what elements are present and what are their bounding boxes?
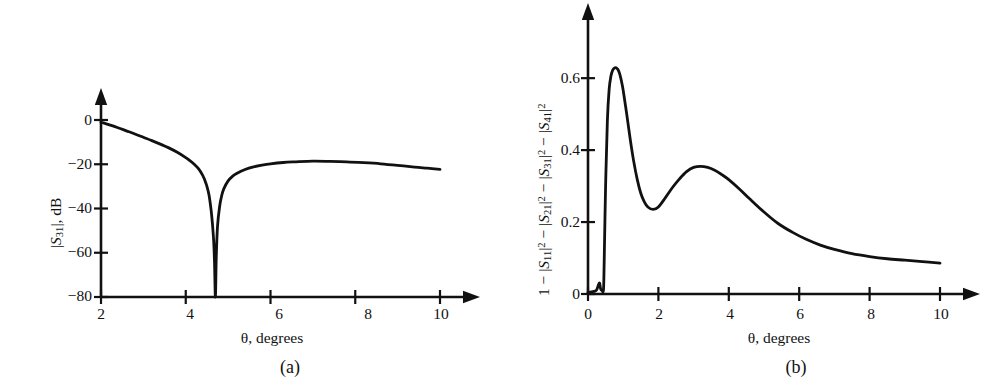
panel-a-ytick-minus80: −80 [68,288,92,304]
panel-b-xtick-6: 6 [796,306,804,322]
panel-b-y-axis-arrow [582,3,594,20]
panel-a-y-axis-bar-left: | [47,245,64,248]
figure-container: 0 −20 −40 −60 −80 2 4 6 8 10 θ, degrees … [0,0,987,391]
panel-b-xtick-10: 10 [933,306,949,322]
panel-a-y-axis-unit: , dB [47,198,64,224]
panel-a-y-axis-arrow [95,88,107,105]
panel-a-y-axis-s: S [47,237,64,245]
panel-b-y-axis-title: 1 − |S11|2 − |S21|2 − |S31|2 − |S41|2 [536,104,554,296]
panel-b-ytick-0p2: 0.2 [561,214,580,230]
panel-b-xtick-8: 8 [867,306,875,322]
panel-b-caption: (b) [786,358,807,376]
panel-a-ytick-0: 0 [84,112,92,128]
panel-b-x-axis-arrow [963,288,980,300]
panel-a-caption: (a) [280,358,300,376]
panel-b-plot [494,0,987,391]
panel-b-y-axis-expression: 1 − |S11|2 − |S21|2 − |S31|2 − |S41|2 [535,104,552,296]
panel-b-x-axis-title: θ, degrees [748,330,811,346]
panel-b-ytick-0p4: 0.4 [561,142,580,158]
panel-b-xtick-4: 4 [726,306,734,322]
panel-a-y-axis-subscript: 31 [54,227,65,238]
panel-a-xtick-6: 6 [275,306,283,322]
panel-a-curve-0 [101,122,440,297]
panel-a-y-axis-bar-right: | [47,224,64,227]
panel-b-x-axis-title-text: θ, degrees [748,329,811,346]
panel-a-x-axis-title: θ, degrees [241,330,304,346]
panel-a-ytick-minus60: −60 [68,244,92,260]
panel-a-xtick-8: 8 [364,306,372,322]
panel-b-ytick-0p6: 0.6 [561,70,580,86]
panel-a-xtick-2: 2 [97,306,105,322]
panel-a-ytick-minus40: −40 [68,200,92,216]
panel-a-y-axis-title: |S31|, dB [48,198,66,248]
panel-b-curve-0 [588,68,940,293]
panel-a-x-axis-title-text: θ, degrees [241,329,304,346]
panel-b: 0 0.2 0.4 0.6 0 2 4 6 8 10 θ, degrees 1 … [494,0,987,391]
panel-b-xtick-2: 2 [655,306,663,322]
panel-a-ytick-minus20: −20 [68,156,92,172]
panel-a-xtick-4: 4 [186,306,194,322]
panel-a-x-axis-arrow [463,291,480,303]
panel-a: 0 −20 −40 −60 −80 2 4 6 8 10 θ, degrees … [0,0,493,391]
panel-b-ytick-0: 0 [572,286,580,302]
panel-a-xtick-10: 10 [433,306,449,322]
panel-b-xtick-0: 0 [584,306,592,322]
